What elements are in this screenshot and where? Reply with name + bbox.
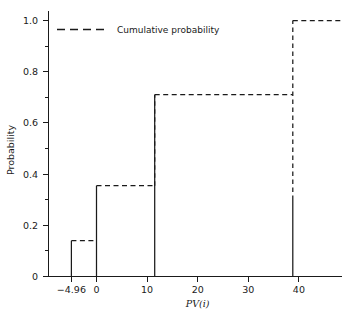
- legend-label-cumulative-probability: Cumulative probability: [117, 25, 220, 35]
- x-tick-label-10: 10: [141, 284, 153, 295]
- y-tick-label-0: 0: [32, 271, 38, 282]
- y-tick-labels: 1.0 0.8 0.6 0.4 0.2 0: [23, 15, 38, 282]
- y-tick-label-0.4: 0.4: [23, 169, 38, 180]
- x-tick-labels: −4.96 0 10 20 30 40: [57, 284, 305, 295]
- chart-container: 1.0 0.8 0.6 0.4 0.2 0 −4.96 0 10 20 30 4…: [0, 0, 348, 312]
- axis-group: [49, 11, 343, 277]
- x-tick-label-20: 20: [192, 284, 204, 295]
- y-axis-title: Probability: [5, 125, 16, 176]
- x-axis-ticks: [71, 277, 299, 283]
- x-tick-label-0: 0: [93, 284, 99, 295]
- x-tick-label--4.96: −4.96: [57, 284, 86, 295]
- cumulative-probability-series: [71, 21, 341, 241]
- x-axis-title: PV(i): [185, 298, 210, 309]
- step-risers-solid: [71, 95, 292, 277]
- y-tick-label-0.6: 0.6: [23, 117, 38, 128]
- legend: Cumulative probability: [57, 25, 220, 35]
- x-tick-label-30: 30: [242, 284, 254, 295]
- cumulative-probability-chart: 1.0 0.8 0.6 0.4 0.2 0 −4.96 0 10 20 30 4…: [0, 0, 348, 312]
- y-tick-label-0.2: 0.2: [23, 220, 38, 231]
- y-tick-label-1.0: 1.0: [23, 15, 38, 26]
- y-axis-minor-ticks: [45, 46, 49, 251]
- y-tick-label-0.8: 0.8: [23, 66, 38, 77]
- x-tick-label-40: 40: [293, 284, 305, 295]
- step-risers-dashed: [97, 21, 293, 201]
